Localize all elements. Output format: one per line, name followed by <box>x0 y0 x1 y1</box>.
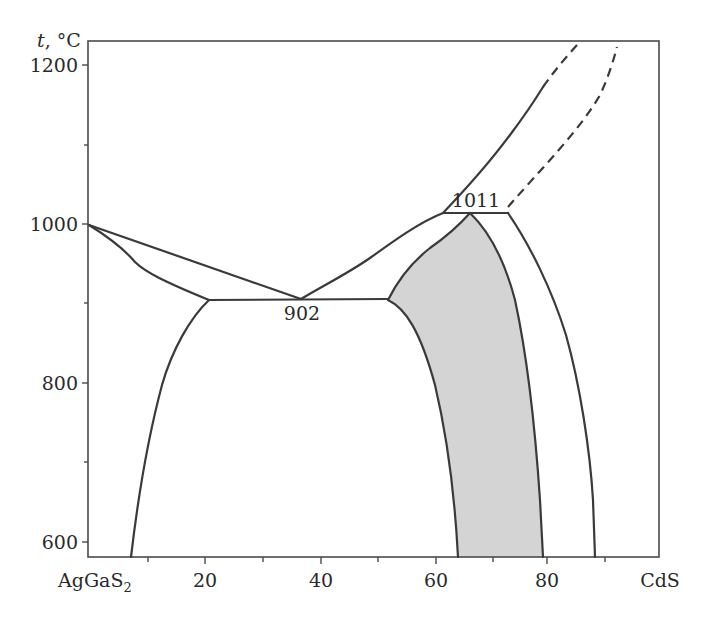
x-tick-label-60: 60 <box>424 569 448 591</box>
x-tick-label-40: 40 <box>309 569 333 591</box>
x-axis-label-left: AgGaS2 <box>57 569 132 595</box>
phase-diagram: t, °C 1200 1000 800 600 AgGaS2 20 40 60 … <box>0 0 710 620</box>
y-ticks <box>82 65 88 542</box>
liquidus-left <box>89 225 301 299</box>
x-ticks <box>148 557 605 564</box>
eutectic-line <box>209 299 388 300</box>
liquidus-right-extrapolated <box>543 44 578 87</box>
x-tick-label-80: 80 <box>535 569 559 591</box>
y-axis-title-unit: , °C <box>45 29 81 51</box>
y-tick-label-800: 800 <box>42 372 78 394</box>
y-tick-label-600: 600 <box>42 531 78 553</box>
solidus-left <box>89 225 209 300</box>
peritectic-temperature-label: 1011 <box>452 189 500 211</box>
x-tick-label-20: 20 <box>193 569 217 591</box>
x-axis-label-left-main: AgGaS <box>57 569 123 591</box>
x-axis-label-left-sub: 2 <box>123 580 131 595</box>
x-axis-label-right: CdS <box>640 569 680 591</box>
eutectic-temperature-label: 902 <box>284 302 320 324</box>
solidus-right-extrapolated <box>508 47 617 207</box>
y-tick-label-1200: 1200 <box>30 54 78 76</box>
y-axis-title: t, °C <box>37 29 81 51</box>
solvus-alpha <box>131 300 209 557</box>
y-tick-label-1000: 1000 <box>30 213 78 235</box>
